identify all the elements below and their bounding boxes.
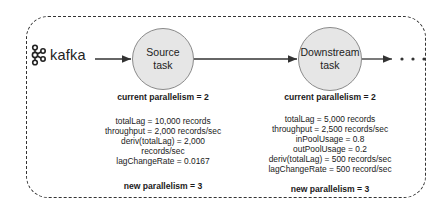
- source-task-label-line1: Source: [146, 46, 179, 59]
- downstream-metric-total-lag: totalLag = 5,000 records: [258, 114, 402, 124]
- kafka-logo-icon: [31, 44, 47, 66]
- source-metric-lag-change-rate: lagChangeRate = 0.0167: [98, 156, 228, 166]
- source-task-node: Source task: [132, 28, 194, 90]
- downstream-new-parallelism: new parallelism = 3: [280, 184, 380, 194]
- kafka-label: kafka: [50, 47, 86, 63]
- downstream-metric-out-pool-usage: outPoolUsage = 0.2: [258, 144, 402, 154]
- connector-arrows: [0, 0, 448, 210]
- downstream-task-label-line1: Downstream: [301, 46, 360, 59]
- source-new-parallelism: new parallelism = 3: [113, 181, 213, 191]
- downstream-metric-deriv: deriv(totalLag) = 500 records/sec: [258, 154, 402, 164]
- source-metrics: totalLag = 10,000 records throughput = 2…: [98, 116, 228, 166]
- kafka-source: kafka: [31, 44, 86, 66]
- downstream-metric-in-pool-usage: inPoolUsage = 0.8: [258, 134, 402, 144]
- downstream-metric-lag-change-rate: lagChangeRate = 500 record/sec: [258, 164, 402, 174]
- source-metric-total-lag: totalLag = 10,000 records: [98, 116, 228, 126]
- downstream-metric-throughput: throughput = 2,500 records/sec: [258, 124, 402, 134]
- source-current-parallelism: current parallelism = 2: [113, 92, 213, 102]
- downstream-task-node: Downstream task: [298, 27, 362, 91]
- downstream-current-parallelism: current parallelism = 2: [280, 92, 380, 102]
- source-task-label-line2: task: [146, 59, 179, 72]
- downstream-metrics: totalLag = 5,000 records throughput = 2,…: [258, 114, 402, 174]
- source-metric-deriv: deriv(totalLag) = 2,000: [98, 136, 228, 146]
- downstream-task-label-line2: task: [301, 59, 360, 72]
- source-metric-deriv-unit: records/sec: [98, 146, 228, 156]
- source-metric-throughput: throughput = 2,000 records/sec: [98, 126, 228, 136]
